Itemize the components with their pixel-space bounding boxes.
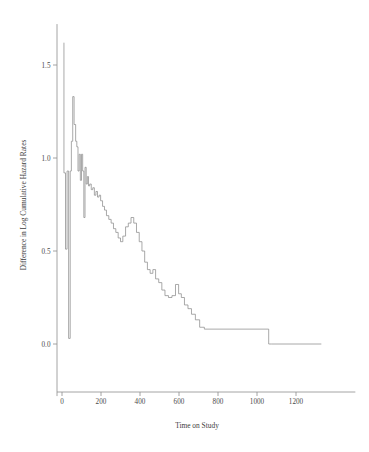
chart-figure: 0.00.51.01.5 020040060080010001200 Time … — [0, 0, 369, 452]
y-tick-label: 0.5 — [42, 248, 51, 256]
x-tick-label: 600 — [174, 398, 185, 406]
x-tick-label: 0 — [60, 398, 64, 406]
hazard-difference-series-line — [64, 43, 321, 344]
x-axis-ticks: 020040060080010001200 — [60, 392, 303, 406]
x-tick-label: 1200 — [289, 398, 304, 406]
x-tick-label: 800 — [213, 398, 224, 406]
y-axis-group: 0.00.51.01.5 — [42, 24, 57, 396]
y-tick-label: 1.0 — [42, 155, 51, 163]
hazard-difference-step-plot: 0.00.51.01.5 020040060080010001200 Time … — [0, 0, 369, 452]
x-tick-label: 1000 — [250, 398, 265, 406]
x-axis-group: 020040060080010001200 — [57, 392, 355, 406]
x-tick-label: 200 — [96, 398, 107, 406]
y-axis-title: Difference in Log Cumulative Hazard Rate… — [19, 140, 28, 271]
y-tick-label: 0.0 — [42, 341, 51, 349]
y-tick-label: 1.5 — [42, 62, 51, 70]
y-axis-ticks: 0.00.51.01.5 — [42, 62, 57, 349]
x-tick-label: 400 — [135, 398, 146, 406]
x-axis-title: Time on Study — [175, 421, 219, 430]
